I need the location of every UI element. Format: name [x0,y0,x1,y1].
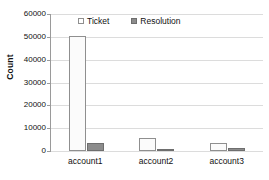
chart-legend: TicketResolution [78,16,181,26]
bar-resolution-account2 [157,149,174,152]
bar-ticket-account2 [139,138,156,151]
legend-swatch-icon [78,18,84,24]
bar-ticket-account1 [69,36,86,151]
x-axis-tick-label: account3 [197,156,257,166]
y-axis-tick-label: 10000 [0,124,46,132]
bar-ticket-account3 [210,143,227,151]
y-axis-tick-label: 60000 [0,10,46,18]
gridline [51,151,263,152]
bar-resolution-account3 [228,148,245,151]
y-axis-tick-label: 0 [0,147,46,155]
bar-group [122,14,193,151]
legend-entry-ticket[interactable]: Ticket [78,16,109,26]
bar-group [51,14,122,151]
x-axis-tick-label: account1 [55,156,115,166]
legend-swatch-icon [131,18,137,24]
plot-area [50,14,263,152]
y-axis-tick-label: 20000 [0,101,46,109]
x-axis-tick-label: account2 [126,156,186,166]
bar-group [192,14,263,151]
bar-resolution-account1 [87,143,104,151]
legend-entry-resolution[interactable]: Resolution [131,16,180,26]
legend-label: Resolution [140,16,180,26]
legend-label: Ticket [87,16,109,26]
bar-chart: Count 0100002000030000400005000060000 ac… [0,0,269,180]
y-axis-title: Count [5,37,15,97]
